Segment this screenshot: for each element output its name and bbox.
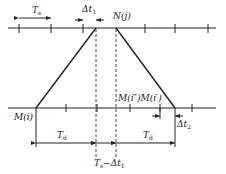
ts-minus-dt1-label: Ts−Δt1 (94, 158, 125, 169)
bottom-dimension: Td Td Ts−Δt1 (36, 130, 175, 169)
dt1-dimension: Δt1 (75, 4, 104, 20)
dt2-label: Δt2 (176, 119, 191, 130)
td-left-label: Td (57, 130, 67, 141)
ts-label: Ts (32, 5, 41, 16)
td-right-label: Td (143, 130, 153, 141)
timing-diagram: Ts Δt1 N(j) M(i) M(i″)M(i′) Δt2 (0, 0, 226, 174)
bottom-time-axis (8, 104, 216, 112)
dt2-dimension: Δt2 (152, 108, 191, 130)
dashed-guides (96, 29, 116, 158)
mi-label: M(i) (13, 112, 34, 122)
dt1-label: Δt1 (81, 4, 96, 15)
nj-label: N(j) (112, 11, 131, 21)
ts-dimension: Ts (19, 5, 51, 18)
top-time-axis (8, 24, 216, 33)
mi-double-prime-label: M(i″)M(i′) (117, 93, 162, 103)
